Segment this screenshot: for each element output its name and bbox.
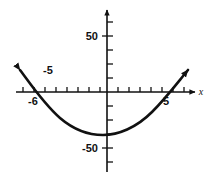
y-axis-label-50: 50 xyxy=(86,30,98,42)
y-axis-group xyxy=(102,10,113,172)
x-axis-group: x xyxy=(16,86,204,97)
x-axis-label-positive-5: 5 xyxy=(163,95,169,107)
x-axis-label-negative-6: -6 xyxy=(28,95,38,107)
annotation-label-negative-5: -5 xyxy=(43,64,53,76)
x-axis-letter-label: x xyxy=(198,86,204,97)
graph-canvas: x 50 -50 -6 5 -5 xyxy=(0,0,212,175)
parabola-graph-figure: x 50 -50 -6 5 -5 xyxy=(0,0,212,175)
y-axis-label-negative-50: -50 xyxy=(82,142,98,154)
